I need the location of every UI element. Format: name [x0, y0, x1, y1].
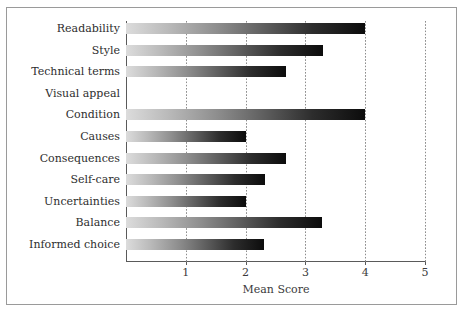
- tick-mark-3: [305, 262, 306, 265]
- category-label: Visual appeal: [8, 88, 120, 99]
- category-label: Consequences: [8, 153, 120, 164]
- figure-container: 12345 ReadabilityStyleTechnical termsVis…: [0, 0, 469, 319]
- bar: [126, 23, 365, 34]
- chart-row: Causes: [0, 129, 469, 151]
- category-label: Condition: [8, 109, 120, 120]
- category-label: Causes: [8, 131, 120, 142]
- bar: [126, 66, 286, 77]
- tick-mark-5: [425, 262, 426, 265]
- chart-row: Condition: [0, 107, 469, 129]
- tick-mark-4: [365, 262, 366, 265]
- category-label: Technical terms: [8, 66, 120, 77]
- category-label: Balance: [8, 217, 120, 228]
- chart-row: Informed choice: [0, 237, 469, 259]
- tick-mark-2: [246, 262, 247, 265]
- bar: [126, 153, 286, 164]
- chart-row: Uncertainties: [0, 194, 469, 216]
- category-label: Readability: [8, 23, 120, 34]
- x-tick-label: 1: [171, 266, 201, 279]
- chart-row: Self-care: [0, 172, 469, 194]
- bar: [126, 196, 246, 207]
- x-axis-spine: [126, 261, 426, 262]
- category-label: Uncertainties: [8, 196, 120, 207]
- chart-row: Balance: [0, 215, 469, 237]
- chart-row: Visual appeal: [0, 86, 469, 108]
- x-tick-label: 5: [410, 266, 440, 279]
- chart-row: Style: [0, 43, 469, 65]
- bar: [126, 239, 264, 250]
- bar: [126, 174, 265, 185]
- category-label: Style: [8, 45, 120, 56]
- bar: [126, 131, 246, 142]
- x-tick-label: 3: [290, 266, 320, 279]
- chart-row: Consequences: [0, 151, 469, 173]
- category-label: Informed choice: [8, 239, 120, 250]
- x-tick-label: 2: [231, 266, 261, 279]
- chart-row: Readability: [0, 21, 469, 43]
- x-tick-label: 4: [350, 266, 380, 279]
- tick-mark-1: [186, 262, 187, 265]
- bar: [126, 45, 323, 56]
- bar: [126, 217, 322, 228]
- x-axis-title: Mean Score: [126, 283, 426, 296]
- category-label: Self-care: [8, 174, 120, 185]
- chart-row: Technical terms: [0, 64, 469, 86]
- bar: [126, 109, 365, 120]
